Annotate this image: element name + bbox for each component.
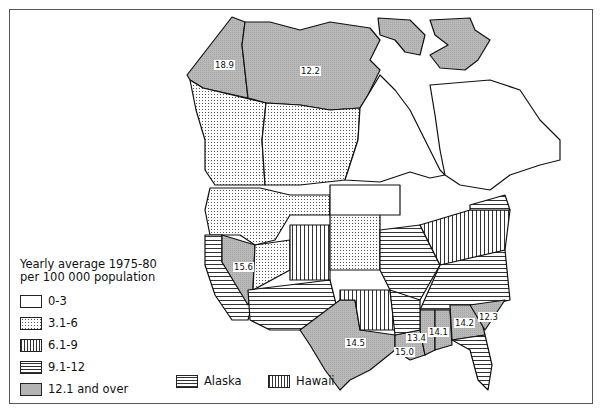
label-nevada: 15.6 <box>233 262 254 272</box>
region-florida <box>452 335 492 390</box>
region-dakotas <box>330 185 400 215</box>
swatch-blank <box>20 295 42 308</box>
label-nwt: 12.2 <box>300 66 321 76</box>
legend-title: Yearly average 1975-80 per 100 000 popul… <box>20 258 157 284</box>
label-yukon: 18.9 <box>214 60 235 70</box>
legend-item-12-plus: 12.1 and over <box>20 378 157 400</box>
swatch-alaska <box>176 375 198 388</box>
region-northeast <box>470 195 510 210</box>
swatch-gray-fill <box>20 383 42 396</box>
region-wyoming-colorado <box>290 225 330 280</box>
legend-item-0-3: 0-3 <box>20 290 157 312</box>
arctic-islands <box>378 18 425 55</box>
legend-item-3-6: 3.1-6 <box>20 312 157 334</box>
legend-alaska: Alaska <box>176 374 242 388</box>
label-texas: 14.5 <box>345 338 366 348</box>
region-utah-wyoming <box>253 240 290 290</box>
legend-item-9-12: 9.1-12 <box>20 356 157 378</box>
region-alberta-sask <box>262 103 360 185</box>
label-louisiana: 15.0 <box>394 347 415 357</box>
legend-item-6-9: 6.1-9 <box>20 334 157 356</box>
swatch-vertical-lines <box>20 339 42 352</box>
label-south-carolina: 12.3 <box>478 312 499 322</box>
label-alabama: 14.1 <box>428 327 449 337</box>
legend-hawaii: Hawaii <box>268 374 335 388</box>
swatch-hawaii <box>268 375 290 388</box>
swatch-horizontal-lines <box>20 361 42 374</box>
region-quebec-labrador <box>430 80 560 190</box>
label-mississippi: 13.4 <box>406 333 427 343</box>
label-georgia: 14.2 <box>454 318 475 328</box>
legend: Yearly average 1975-80 per 100 000 popul… <box>20 258 157 400</box>
swatch-dots <box>20 317 42 330</box>
